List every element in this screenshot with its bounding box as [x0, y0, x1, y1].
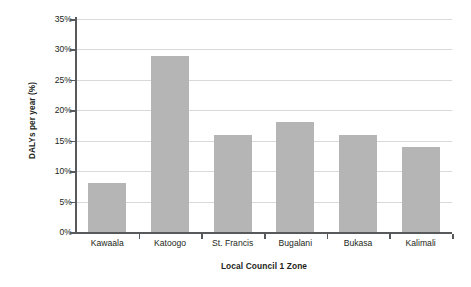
bar[interactable] [151, 56, 189, 232]
x-axis-tick-mark [327, 234, 329, 239]
y-axis-tick-mark [70, 141, 76, 143]
x-axis-tick-mark [139, 234, 141, 239]
bar-slot [264, 19, 327, 232]
x-axis-tick-mark [452, 234, 454, 239]
y-axis-tick-label: 35% [44, 15, 72, 24]
y-axis-tick-label: 30% [44, 45, 72, 54]
bar-slot [327, 19, 390, 232]
bar[interactable] [339, 135, 377, 232]
y-axis-tick-mark [70, 110, 76, 112]
bars-layer [76, 19, 452, 232]
x-axis-tick-label: St. Francis [212, 238, 253, 248]
bar-slot [201, 19, 264, 232]
y-axis-tick-label: 10% [44, 167, 72, 176]
y-axis-tick-mark [70, 19, 76, 21]
bar-slot [139, 19, 202, 232]
y-axis-tick-labels: 0%5%10%15%20%25%30%35% [44, 12, 72, 232]
x-axis-tick-mark [264, 234, 266, 239]
x-axis-tick-mark [201, 234, 203, 239]
x-axis-tick-label: Kalimali [406, 238, 436, 248]
y-axis-tick-label: 20% [44, 106, 72, 115]
x-axis-title: Local Council 1 Zone [76, 261, 452, 271]
y-axis-tick-mark [70, 171, 76, 173]
x-axis-tick-mark [389, 234, 391, 239]
y-axis-tick-label: 5% [44, 197, 72, 206]
x-axis-tick-label: Bukasa [344, 238, 373, 248]
bar[interactable] [88, 183, 126, 232]
y-axis-tick-mark [70, 49, 76, 51]
x-axis-tick-label: Katoogo [154, 238, 186, 248]
bar-chart-figure: DALYs per year (%) 0%5%10%15%20%25%30%35… [0, 0, 471, 287]
bar[interactable] [402, 147, 440, 232]
bar[interactable] [276, 122, 314, 232]
x-axis-tick-label: Bugalani [279, 238, 312, 248]
x-axis-tick-labels: KawaalaKatoogoSt. FrancisBugalaniBukasaK… [76, 238, 452, 254]
y-axis-tick-mark [70, 202, 76, 204]
y-axis-tick-label: 25% [44, 76, 72, 85]
y-axis-title: DALYs per year (%) [28, 36, 37, 206]
y-axis-tick-mark [70, 232, 76, 234]
y-axis-tick-label: 15% [44, 136, 72, 145]
bar[interactable] [214, 135, 252, 232]
x-axis-tick-label: Kawaala [91, 238, 124, 248]
y-axis-tick-mark [70, 80, 76, 82]
y-axis-tick-label: 0% [44, 228, 72, 237]
bar-slot [389, 19, 452, 232]
bar-slot [76, 19, 139, 232]
